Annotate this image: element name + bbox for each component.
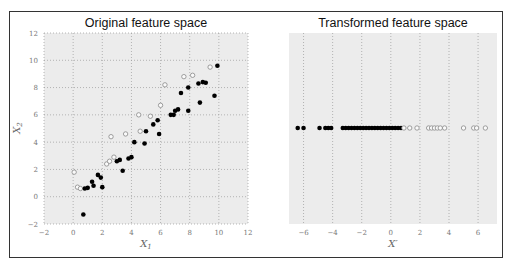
x-tick-label: −2 <box>357 229 367 237</box>
data-point-open <box>137 113 141 117</box>
data-point-filled <box>186 108 191 113</box>
data-point-open <box>123 132 127 136</box>
y-tick-label: 6 <box>34 111 39 119</box>
data-point-filled <box>155 118 160 123</box>
data-point-open <box>208 65 212 69</box>
figure: Original feature space −2024681012 −2024… <box>0 0 514 266</box>
data-point-filled <box>151 122 156 127</box>
data-point-open <box>408 126 412 130</box>
y-tick-label: 2 <box>34 166 38 174</box>
data-point-filled <box>203 80 208 85</box>
data-point-filled <box>142 141 147 146</box>
data-point-filled <box>215 63 220 68</box>
left-plot-title: Original feature space <box>85 16 207 30</box>
data-point-open <box>107 159 111 163</box>
x-tick-label: 12 <box>244 229 253 237</box>
data-point-open <box>415 126 419 130</box>
data-point-filled <box>81 212 86 217</box>
x-tick-label: −2 <box>39 229 49 237</box>
data-point-open <box>148 114 152 118</box>
data-point-filled <box>176 107 181 112</box>
data-point-open <box>190 73 194 77</box>
x-tick-label: 4 <box>447 229 452 237</box>
data-point-filled <box>144 129 149 134</box>
data-point-filled <box>90 179 95 184</box>
data-point-filled <box>196 81 201 86</box>
data-point-open <box>109 134 113 138</box>
data-point-open <box>438 126 442 130</box>
data-point-filled <box>198 100 203 105</box>
right-plot-title: Transformed feature space <box>318 16 468 30</box>
data-point-filled <box>212 93 217 98</box>
data-point-filled <box>186 85 191 90</box>
right-x-axis-label: X′ <box>387 238 398 249</box>
data-point-filled <box>91 184 96 189</box>
y-tick-label: 8 <box>34 84 38 92</box>
x-tick-label: 0 <box>71 229 75 237</box>
left-x-axis-label: X1 <box>139 238 152 251</box>
x-tick-label: −4 <box>327 229 338 237</box>
y-tick-label: 4 <box>34 139 39 147</box>
transformed-feature-space-plot: Transformed feature space −6−4−20246 X′ <box>289 16 497 249</box>
data-point-open <box>402 126 406 130</box>
data-point-filled <box>117 158 122 163</box>
left-y-ticks: −2024681012 <box>28 30 39 229</box>
x-tick-label: 6 <box>158 229 163 237</box>
left-x-ticks: −2024681012 <box>39 229 253 237</box>
data-point-filled <box>120 168 125 173</box>
data-point-filled <box>129 155 134 160</box>
data-point-filled <box>132 140 137 145</box>
data-point-filled <box>85 186 90 191</box>
data-point-filled <box>157 132 162 137</box>
x-tick-label: 4 <box>129 229 134 237</box>
data-point-open <box>72 170 76 174</box>
right-x-ticks: −6−4−20246 <box>298 229 480 237</box>
data-point-filled <box>179 91 184 96</box>
data-point-open <box>158 103 162 107</box>
data-point-filled <box>99 175 104 180</box>
y-tick-label: 10 <box>29 57 38 65</box>
data-point-open <box>474 126 478 130</box>
original-feature-space-plot: Original feature space −2024681012 −2024… <box>11 16 252 251</box>
x-tick-label: 2 <box>418 229 422 237</box>
x-tick-label: −6 <box>298 229 309 237</box>
x-tick-label: 8 <box>187 229 191 237</box>
left-plot-area <box>44 33 248 224</box>
data-point-open <box>442 126 446 130</box>
x-tick-label: 2 <box>100 229 104 237</box>
data-point-open <box>112 155 116 159</box>
y-tick-label: 0 <box>34 193 38 201</box>
data-point-open <box>182 74 186 78</box>
data-point-filled <box>295 126 300 131</box>
left-y-axis-label: X2 <box>11 122 24 135</box>
data-point-filled <box>100 185 105 190</box>
x-tick-label: 0 <box>389 229 393 237</box>
data-point-open <box>483 126 487 130</box>
data-point-open <box>163 83 167 87</box>
data-point-filled <box>329 126 334 131</box>
x-tick-label: 6 <box>476 229 481 237</box>
y-tick-label: −2 <box>28 221 38 229</box>
y-tick-label: 12 <box>29 30 38 38</box>
data-point-filled <box>171 113 176 118</box>
x-tick-label: 10 <box>214 229 223 237</box>
data-point-filled <box>317 126 322 131</box>
data-point-filled <box>301 126 306 131</box>
data-point-open <box>461 126 465 130</box>
data-point-open <box>138 129 142 133</box>
data-point-open <box>78 186 82 190</box>
